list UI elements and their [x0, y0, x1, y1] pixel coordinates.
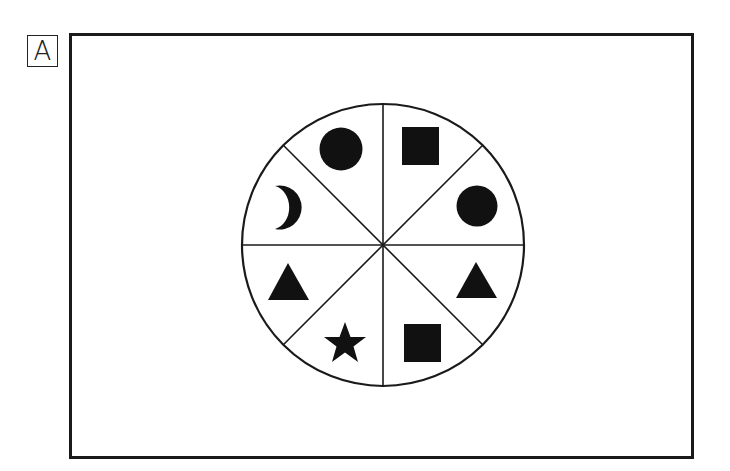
wheel-dividers [242, 104, 524, 386]
circle-icon [320, 128, 363, 171]
circle-icon [457, 186, 498, 227]
square-icon [404, 324, 441, 362]
square-icon [402, 127, 439, 165]
shape-wheel [0, 0, 730, 471]
